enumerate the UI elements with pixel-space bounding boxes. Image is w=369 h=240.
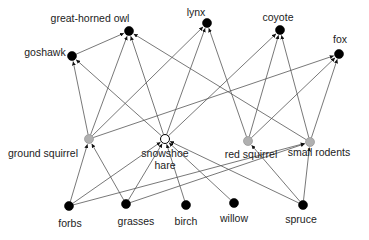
node-lynx <box>203 19 212 28</box>
label-red-squirrel: red squirrel <box>225 148 278 160</box>
edge-ground-squirrel-to-lynx <box>92 27 203 136</box>
node-birch <box>182 201 191 210</box>
node-snowshoe-hare <box>161 135 170 144</box>
edge-snowshoe-hare-to-goshawk <box>76 60 162 136</box>
labels-layer: great-horned owllynxcoyotefoxgoshawkgrou… <box>8 6 350 229</box>
node-willow <box>230 199 239 208</box>
edge-grasses-to-ground-squirrel <box>92 144 124 200</box>
node-grasses <box>122 200 131 209</box>
node-forbs <box>65 202 74 211</box>
node-red-squirrel <box>244 137 253 146</box>
label-coyote: coyote <box>263 11 294 23</box>
label-great-horned-owl: great-horned owl <box>51 12 130 24</box>
food-web-diagram: great-horned owllynxcoyotefoxgoshawkgrou… <box>0 0 369 240</box>
label-spruce: spruce <box>285 213 317 225</box>
edge-small-rodents-to-fox <box>311 59 337 138</box>
edges-layer <box>70 27 337 205</box>
label-ground-squirrel: ground squirrel <box>8 147 78 159</box>
edge-snowshoe-hare-to-great-horned-owl <box>131 36 164 135</box>
label-snowshoe-hare: snowshoe <box>141 147 188 159</box>
label-birch: birch <box>175 215 198 227</box>
label-grasses: grasses <box>118 215 155 227</box>
label-lynx: lynx <box>187 6 206 18</box>
nodes-layer <box>65 19 344 211</box>
edge-ground-squirrel-to-goshawk <box>73 61 88 134</box>
node-spruce <box>299 201 308 210</box>
edge-goshawk-to-great-horned-owl <box>76 33 124 54</box>
node-ground-squirrel <box>85 135 94 144</box>
label-snowshoe-hare-line2: hare <box>154 159 175 171</box>
node-fox <box>335 50 344 59</box>
label-willow: willow <box>219 212 248 224</box>
node-great-horned-owl <box>125 27 134 36</box>
edge-red-squirrel-to-coyote <box>249 35 278 136</box>
label-small-rodents: small rodents <box>288 146 350 158</box>
label-forbs: forbs <box>58 217 81 229</box>
node-coyote <box>276 26 285 35</box>
edge-red-squirrel-to-lynx <box>209 28 247 137</box>
node-goshawk <box>68 52 77 61</box>
label-goshawk: goshawk <box>24 46 66 58</box>
label-fox: fox <box>333 33 348 45</box>
